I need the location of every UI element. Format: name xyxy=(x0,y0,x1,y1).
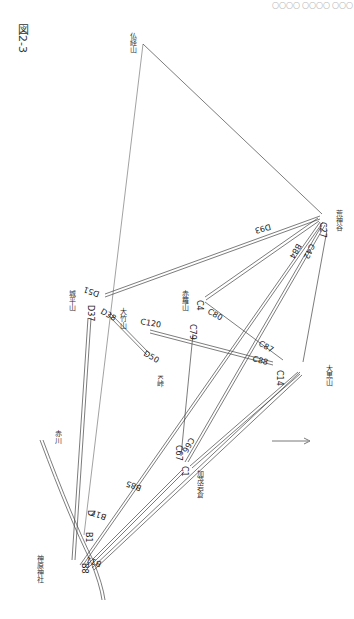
place-label-otakeyama: 大竹山 xyxy=(118,308,128,329)
code-label-b84: B84 xyxy=(287,242,303,260)
line-busshozan-arakamidani xyxy=(143,44,322,214)
code-label-c80: C80 xyxy=(206,307,224,323)
code-label-d50: D50 xyxy=(142,349,161,365)
place-label-kanbara-jinja: 神原神社 xyxy=(35,555,45,583)
code-label-c1: C1 xyxy=(180,466,189,477)
code-label-d38: D38 xyxy=(99,307,118,323)
site-code-labels: C27D93B84C42C4C80C79C87C88C14D51D37D38C1… xyxy=(80,222,327,574)
place-label-jonohirayama: 城平山 xyxy=(67,290,77,311)
code-label-c120: C120 xyxy=(140,317,162,329)
code-label-b1: B1 xyxy=(84,532,93,543)
code-label-b8: B8 xyxy=(80,563,89,574)
code-label-c88: C88 xyxy=(251,354,269,367)
code-label-c79: C79 xyxy=(188,324,197,340)
code-label-b85: B85 xyxy=(125,479,143,493)
code-label-c27: C27 xyxy=(318,222,327,238)
line-c27-d51 xyxy=(105,216,320,294)
north-arrow xyxy=(272,438,310,444)
code-label-d93: D93 xyxy=(254,222,272,235)
code-label-d: D xyxy=(86,510,95,516)
place-label-akabaneyama: 赤羅山 xyxy=(180,290,190,311)
code-label-c14: C14 xyxy=(275,370,284,386)
code-label-c67: C67 xyxy=(174,445,183,461)
code-label-d37: D37 xyxy=(86,305,95,321)
place-label-oguroyama: 大黒山 xyxy=(324,365,334,386)
site-relationship-diagram: C27D93B84C42C4C80C79C87C88C14D51D37D38C1… xyxy=(0,0,354,619)
place-label-arakamidani: 荒神谷 xyxy=(334,210,344,231)
place-label-k-toge: K峠 xyxy=(155,375,165,387)
place-label-kamoiwakura: 加茂岩倉 xyxy=(195,470,205,498)
place-label-busshozan: 仏経山 xyxy=(128,32,138,53)
code-label-c4: C4 xyxy=(195,300,204,311)
place-label-akagawa: 赤川 xyxy=(53,430,63,444)
code-label-d51: D51 xyxy=(82,285,100,299)
